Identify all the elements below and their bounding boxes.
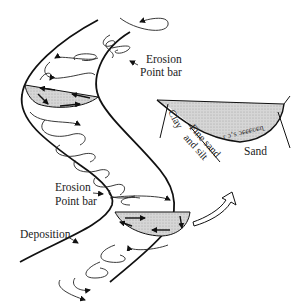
label-sand: Sand [244,145,267,157]
label-upper-erosion: Erosion [146,53,182,65]
left-channel-bank [20,20,113,262]
diagram-svg: ɾ ɔʼs ɔɕɕɕʋɕɳ Erosion Point bar Erosion … [0,0,298,308]
label-lower-point-bar: Point bar [55,195,97,207]
upper-shaded-cross-section [25,85,98,107]
label-lower-erosion: Erosion [55,181,91,193]
label-deposition: Deposition [20,228,71,241]
label-upper-point-bar: Point bar [140,66,182,78]
meander-diagram: ɾ ɔʼs ɔɕɕɕʋɕɳ Erosion Point bar Erosion … [0,0,298,308]
curved-pointer-arrow [193,192,236,226]
